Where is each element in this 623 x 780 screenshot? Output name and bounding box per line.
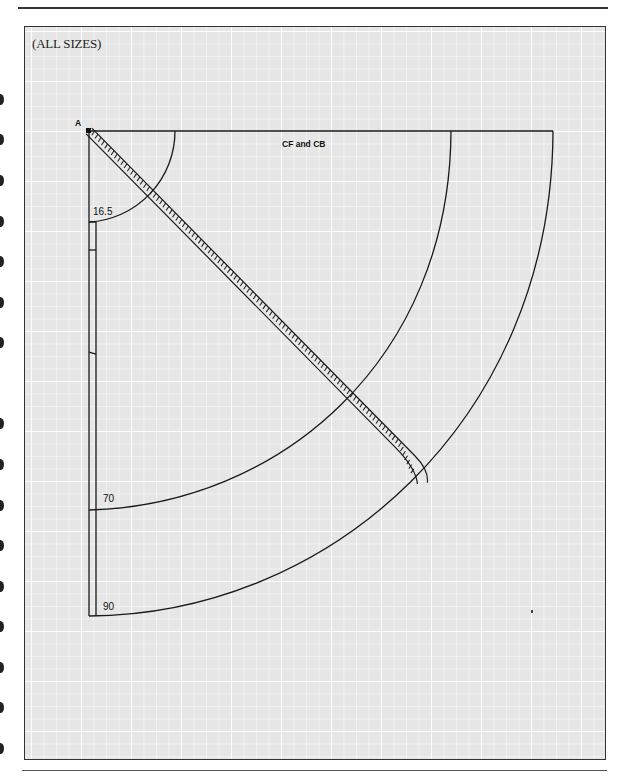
- ruler-tick: [385, 429, 389, 433]
- ruler-tick: [224, 265, 228, 269]
- ruler-tick: [324, 367, 328, 371]
- ruler-tick: [130, 170, 134, 174]
- ruler-tick: [343, 387, 347, 391]
- ruler-tick: [317, 360, 321, 364]
- ruler-tick: [127, 167, 131, 171]
- ruler-tick: [246, 288, 250, 292]
- ruler-tick: [398, 442, 402, 446]
- ruler-tick: [98, 138, 102, 142]
- ruler-tick: [110, 151, 114, 155]
- length-70-label: 70: [103, 493, 115, 504]
- ruler-tick: [207, 249, 211, 253]
- ruler-tick: [259, 301, 263, 305]
- ruler: [79, 128, 434, 488]
- ruler-tick: [198, 239, 202, 243]
- ruler-tick: [220, 262, 224, 266]
- point-a-marker: [86, 128, 91, 133]
- ruler-tick: [333, 377, 337, 381]
- ruler-tick: [240, 282, 244, 286]
- ruler-tick: [395, 439, 399, 443]
- ruler-tick: [188, 229, 192, 233]
- bottom-rule: [22, 770, 607, 771]
- ruler-tick: [152, 193, 156, 197]
- ruler-tick: [400, 447, 404, 451]
- hem-curve-90: [89, 131, 553, 616]
- ruler-tick: [301, 344, 305, 348]
- ruler-tick: [278, 321, 282, 325]
- ruler-tick: [366, 409, 370, 413]
- ruler-tick: [391, 436, 395, 440]
- ruler-tick: [243, 285, 247, 289]
- tick-mark: [89, 352, 96, 354]
- ruler-tick: [182, 223, 186, 227]
- ruler-tick: [185, 226, 189, 230]
- length-90-label: 90: [103, 601, 115, 612]
- point-a-label: A: [75, 118, 81, 128]
- ruler-tick: [101, 141, 105, 145]
- ruler-tick: [214, 256, 218, 260]
- ruler-tick: [146, 187, 150, 191]
- ruler-tick: [327, 370, 331, 374]
- ruler-tick: [107, 147, 111, 151]
- ruler-tick: [236, 278, 240, 282]
- ruler-tick: [117, 157, 121, 161]
- ruler-tick: [178, 219, 182, 223]
- speck: [531, 610, 533, 613]
- pattern-draft: A CF and CB 16.5 70 90: [0, 0, 623, 780]
- ruler-tick: [140, 180, 144, 184]
- ruler-tick: [337, 380, 341, 384]
- ruler-tick: [194, 236, 198, 240]
- ruler-tick: [169, 210, 173, 214]
- ruler-tick: [272, 314, 276, 318]
- ruler-tick: [282, 324, 286, 328]
- ruler-tick: [211, 252, 215, 256]
- ruler-tick: [291, 334, 295, 338]
- ruler-tick: [165, 206, 169, 210]
- ruler-tick: [266, 308, 270, 312]
- ruler-tick: [123, 164, 127, 168]
- ruler-tick: [159, 200, 163, 204]
- ruler-tick: [285, 328, 289, 332]
- ruler-tick: [156, 197, 160, 201]
- ruler-tick: [230, 272, 234, 276]
- ruler-tick: [388, 432, 392, 436]
- edge-label: CF and CB: [282, 139, 325, 149]
- ruler-tick: [256, 298, 260, 302]
- ruler-tick: [382, 426, 386, 430]
- ruler-tick: [304, 347, 308, 351]
- ruler-tick: [295, 337, 299, 341]
- ruler-tick: [133, 174, 137, 178]
- ruler-tick: [201, 242, 205, 246]
- ruler-tick: [359, 403, 363, 407]
- ruler-tick: [288, 331, 292, 335]
- ruler-tick: [149, 190, 153, 194]
- ruler-tick: [269, 311, 273, 315]
- ruler-tick: [175, 216, 179, 220]
- ruler-tick: [162, 203, 166, 207]
- ruler-tick: [227, 269, 231, 273]
- ruler-tick: [172, 213, 176, 217]
- ruler-tick: [253, 295, 257, 299]
- ruler-tick: [346, 390, 350, 394]
- ruler-tick: [375, 419, 379, 423]
- ruler-tick: [91, 131, 95, 135]
- ruler-tick: [104, 144, 108, 148]
- ruler-tick: [204, 246, 208, 250]
- ruler-tick: [362, 406, 366, 410]
- ruler-tick: [402, 451, 406, 455]
- ruler-tick: [136, 177, 140, 181]
- ruler-tick: [340, 383, 344, 387]
- ruler-tick: [275, 318, 279, 322]
- ruler-tick: [353, 396, 357, 400]
- ruler-tick: [114, 154, 118, 158]
- ruler-tick: [369, 413, 373, 417]
- ruler-tick: [249, 292, 253, 296]
- ruler-tick: [311, 354, 315, 358]
- ruler-tick: [262, 305, 266, 309]
- ruler-tick: [298, 341, 302, 345]
- ruler-tick: [379, 423, 383, 427]
- ruler-tick: [308, 350, 312, 354]
- ruler-tick: [314, 357, 318, 361]
- ruler-tick: [191, 233, 195, 237]
- waist-measure-label: 16.5: [93, 206, 113, 217]
